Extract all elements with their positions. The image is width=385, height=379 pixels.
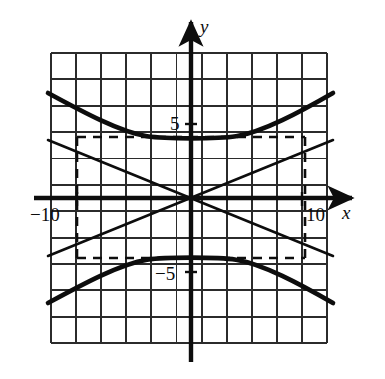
y-tick-label-minus-5: −5 (155, 264, 175, 283)
x-tick-label-minus-10: −10 (30, 205, 60, 224)
y-axis-label: y (200, 17, 208, 36)
graph-canvas (0, 0, 385, 379)
hyperbola-graph-figure: y x 5 −5 10 −10 (0, 0, 385, 379)
y-tick-label-5: 5 (170, 114, 180, 133)
x-tick-label-10: 10 (306, 205, 325, 224)
x-axis-label: x (342, 203, 350, 222)
